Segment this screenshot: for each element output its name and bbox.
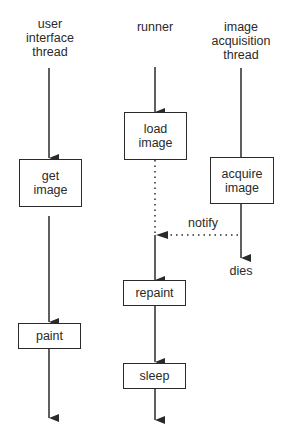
box-text: image (33, 183, 67, 197)
box-text: get (33, 169, 67, 183)
thread-label-runner: runner (125, 20, 185, 34)
label-line: interface (18, 31, 82, 45)
box-acquire-image: acquireimage (210, 157, 274, 204)
box-text: image (222, 181, 263, 195)
notify-arrowhead (156, 231, 168, 239)
box-sleep: sleep (123, 363, 186, 389)
dies-label: dies (221, 264, 261, 278)
notify-label: notify (178, 216, 228, 230)
box-text: acquire (222, 167, 263, 181)
label-line: thread (18, 45, 82, 59)
box-text: sleep (140, 369, 170, 383)
thread-label-ui: user interface thread (18, 17, 82, 59)
box-paint: paint (18, 323, 81, 349)
box-load-image: loadimage (124, 112, 187, 160)
box-text: image (138, 136, 172, 150)
box-get-image: getimage (19, 159, 82, 207)
thread-label-acquisition: image acquisition thread (202, 20, 280, 62)
label-line: thread (202, 48, 280, 62)
box-repaint: repaint (123, 280, 186, 306)
box-text: paint (36, 329, 63, 343)
label-line: runner (125, 20, 185, 34)
box-text: repaint (135, 286, 173, 300)
label-line: image (202, 20, 280, 34)
label-line: acquisition (202, 34, 280, 48)
box-text: load (138, 122, 172, 136)
label-line: user (18, 17, 82, 31)
